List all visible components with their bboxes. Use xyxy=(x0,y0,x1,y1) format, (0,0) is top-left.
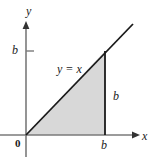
y-axis-label: y xyxy=(26,5,31,17)
line-equation-label: y = x xyxy=(57,63,82,75)
vertical-side-label-b: b xyxy=(113,90,119,102)
diagram-canvas xyxy=(0,0,153,157)
x-axis-tick-label-b: b xyxy=(101,139,107,151)
x-axis-label: x xyxy=(142,130,147,142)
y-axis-tick-label-b: b xyxy=(12,44,18,56)
figure-container: y x 0 b b b y = x xyxy=(0,0,153,157)
y-axis-arrowhead xyxy=(23,21,30,29)
x-axis-arrowhead xyxy=(132,132,140,139)
origin-label: 0 xyxy=(15,138,21,149)
